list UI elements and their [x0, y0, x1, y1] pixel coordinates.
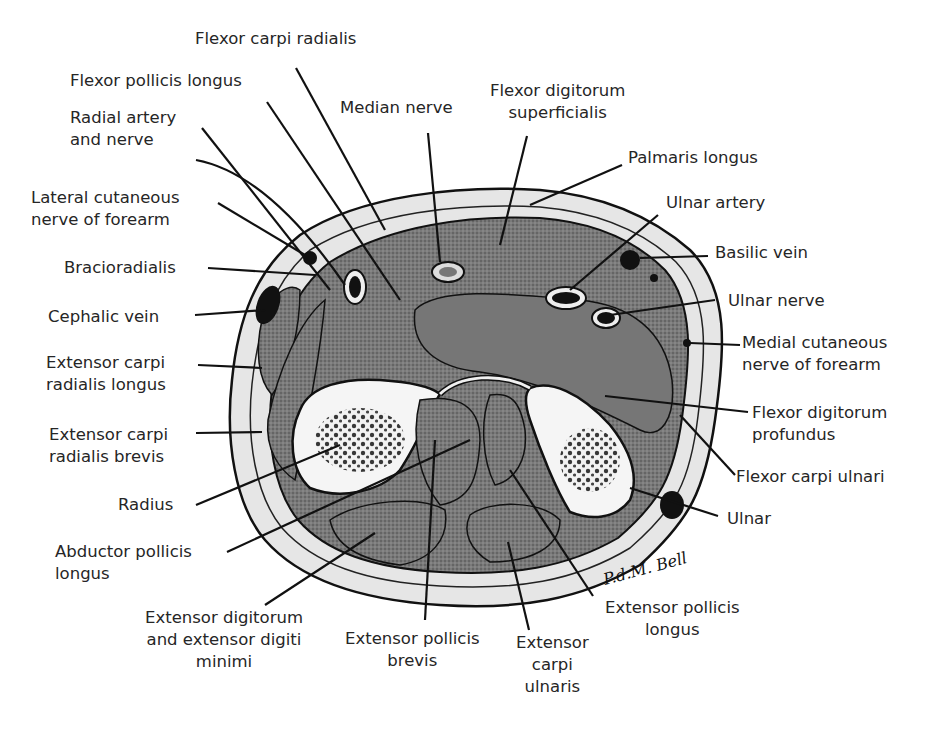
medial-cutaneous-nerve-structure: [683, 339, 691, 347]
label-extensor-pollicis-longus: Extensor pollicis longus: [605, 597, 740, 641]
label-bracioradialis: Bracioradialis: [64, 257, 176, 279]
label-radial-artery-and-nerve: Radial artery and nerve: [70, 107, 176, 151]
label-extensor-pollicis-brevis: Extensor pollicis brevis: [345, 628, 480, 672]
label-ulnar-nerve: Ulnar nerve: [728, 290, 825, 312]
label-flexor-carpi-radialis: Flexor carpi radialis: [195, 28, 356, 50]
label-extensor-carpi-radialis-brevis: Extensor carpi radialis brevis: [49, 424, 168, 468]
label-medial-cutaneous-nerve: Medial cutaneous nerve of forearm: [742, 332, 887, 376]
label-median-nerve: Median nerve: [340, 97, 453, 119]
label-extensor-digitorum: Extensor digitorum and extensor digiti m…: [145, 607, 303, 673]
label-extensor-carpi-ulnaris: Extensor carpi ulnaris: [516, 632, 589, 698]
label-ulnar: Ulnar: [727, 508, 771, 530]
label-radius: Radius: [118, 494, 173, 516]
label-palmaris-longus: Palmaris longus: [628, 147, 758, 169]
label-cephalic-vein: Cephalic vein: [48, 306, 159, 328]
label-flexor-carpi-ulnari: Flexor carpi ulnari: [736, 466, 885, 488]
label-extensor-carpi-radialis-longus: Extensor carpi radialis longus: [46, 352, 166, 396]
label-flexor-pollicis-longus: Flexor pollicis longus: [70, 70, 242, 92]
basilic-vein-structure: [620, 250, 640, 270]
label-basilic-vein: Basilic vein: [715, 242, 808, 264]
label-flexor-digitorum-superficialis: Flexor digitorum superficialis: [490, 80, 625, 124]
label-flexor-digitorum-profundus: Flexor digitorum profundus: [752, 402, 887, 446]
label-lateral-cutaneous-nerve: Lateral cutaneous nerve of forearm: [31, 187, 180, 231]
label-abductor-pollicis-longus: Abductor pollicis longus: [55, 541, 192, 585]
label-ulnar-artery: Ulnar artery: [666, 192, 765, 214]
